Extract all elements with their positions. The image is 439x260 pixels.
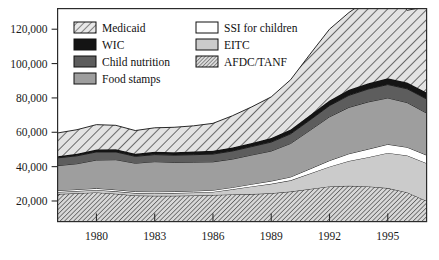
x-tick-label: 1983	[143, 230, 166, 242]
y-tick-label: 60,000	[16, 126, 48, 139]
x-tick-label: 1986	[201, 230, 224, 242]
legend-swatch-afdc-tanf	[196, 56, 218, 67]
legend-swatch-medicaid	[74, 22, 96, 33]
y-tick-label: 40,000	[16, 161, 48, 174]
y-tick-label: 20,000	[16, 195, 48, 208]
legend-label-food-stamps: Food stamps	[102, 73, 161, 86]
y-tick-label: 80,000	[16, 92, 48, 105]
chart-canvas: 20,00040,00060,00080,000100,000120,000 1…	[0, 0, 439, 260]
legend-label-child-nutrition: Child nutrition	[102, 56, 170, 68]
legend-label-afdc-tanf: AFDC/TANF	[224, 56, 287, 68]
legend-swatch-wic	[74, 39, 96, 50]
legend-label-eitc: EITC	[224, 39, 250, 51]
x-tick-label: 1989	[260, 230, 283, 242]
legend-label-ssi-for-children: SSI for children	[224, 22, 298, 34]
legend-swatch-child-nutrition	[74, 56, 96, 67]
legend-label-medicaid: Medicaid	[102, 22, 146, 34]
legend-swatch-food-stamps	[74, 73, 96, 84]
x-tick-label: 1995	[376, 230, 399, 242]
y-tick-label: 120,000	[10, 23, 48, 36]
legend-swatch-ssi-for-children	[196, 22, 218, 33]
x-tick-label: 1980	[85, 230, 108, 242]
stacked-area-chart: 20,00040,00060,00080,000100,000120,000 1…	[0, 0, 439, 260]
legend-label-wic: WIC	[102, 39, 125, 51]
legend-swatch-eitc	[196, 39, 218, 50]
x-tick-label: 1992	[318, 230, 341, 242]
y-tick-label: 100,000	[10, 58, 48, 71]
